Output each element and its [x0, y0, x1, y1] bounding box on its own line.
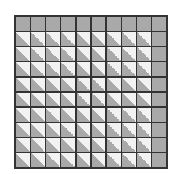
grid-cell-diagonal — [107, 32, 121, 46]
grid-cell-solid — [152, 62, 166, 76]
grid-cell-diagonal — [77, 62, 91, 76]
grid-cell-diagonal — [61, 78, 75, 92]
grid-cell-diagonal — [16, 47, 30, 61]
grid-cell-diagonal — [137, 62, 151, 76]
grid-cell-diagonal — [31, 47, 45, 61]
grid-cell-diagonal — [16, 123, 30, 137]
grid-cell-diagonal — [46, 108, 60, 122]
grid-cell-solid — [152, 123, 166, 137]
grid-cell-solid — [16, 17, 30, 31]
grid-cell-diagonal — [61, 153, 75, 167]
grid-cell-diagonal — [122, 93, 136, 107]
grid-cell-diagonal — [46, 47, 60, 61]
grid-cell-diagonal — [92, 138, 106, 152]
grid-cell-diagonal — [137, 123, 151, 137]
grid-cell-diagonal — [107, 78, 121, 92]
grid-cell-diagonal — [46, 153, 60, 167]
grid-cell-diagonal — [107, 108, 121, 122]
grid-cell-diagonal — [16, 138, 30, 152]
grid-cell-diagonal — [92, 93, 106, 107]
grid-cell-diagonal — [46, 123, 60, 137]
grid-cell-diagonal — [92, 123, 106, 137]
grid-cell-diagonal — [122, 153, 136, 167]
grid-cell-solid — [122, 17, 136, 31]
grid-cell-diagonal — [137, 108, 151, 122]
grid-cell-diagonal — [61, 138, 75, 152]
grid-cell-diagonal — [77, 108, 91, 122]
grid-cell-diagonal — [107, 153, 121, 167]
grid-cell-diagonal — [61, 32, 75, 46]
grid-cell-diagonal — [77, 93, 91, 107]
grid-cell-diagonal — [122, 78, 136, 92]
grid-cell-diagonal — [31, 78, 45, 92]
grid-cell-diagonal — [61, 123, 75, 137]
grid-cell-diagonal — [107, 138, 121, 152]
grid-cell-diagonal — [77, 153, 91, 167]
grid-cell-diagonal — [137, 78, 151, 92]
grid-cell-diagonal — [16, 108, 30, 122]
grid-cell-diagonal — [107, 123, 121, 137]
grid-cell-diagonal — [31, 123, 45, 137]
grid-cell-diagonal — [31, 32, 45, 46]
grid-cell-diagonal — [122, 62, 136, 76]
grid-cell-diagonal — [31, 108, 45, 122]
grid-cell-solid — [31, 17, 45, 31]
grid-cell-diagonal — [46, 93, 60, 107]
grid-cell-solid — [107, 17, 121, 31]
grid-cell-solid — [92, 17, 106, 31]
grid-cell-diagonal — [31, 62, 45, 76]
grid-cell-solid — [152, 78, 166, 92]
grid-cell-diagonal — [61, 47, 75, 61]
diagonal-grid — [14, 15, 168, 169]
grid-cell-diagonal — [77, 47, 91, 61]
grid-cell-diagonal — [137, 153, 151, 167]
grid-cell-diagonal — [137, 47, 151, 61]
grid-cell-diagonal — [16, 78, 30, 92]
grid-cell-solid — [152, 93, 166, 107]
grid-cell-diagonal — [122, 47, 136, 61]
grid-cell-diagonal — [16, 32, 30, 46]
grid-cell-diagonal — [46, 138, 60, 152]
grid-cell-diagonal — [122, 108, 136, 122]
grid-cell-solid — [152, 108, 166, 122]
grid-cell-solid — [152, 138, 166, 152]
grid-cell-diagonal — [46, 62, 60, 76]
grid-cell-diagonal — [61, 108, 75, 122]
grid-cell-diagonal — [137, 138, 151, 152]
grid-cell-diagonal — [61, 62, 75, 76]
grid-cell-diagonal — [31, 153, 45, 167]
grid-cell-diagonal — [122, 123, 136, 137]
grid-cell-diagonal — [107, 62, 121, 76]
grid-cell-diagonal — [92, 47, 106, 61]
grid-cell-solid — [152, 153, 166, 167]
grid-cell-diagonal — [46, 32, 60, 46]
grid-cell-diagonal — [92, 62, 106, 76]
grid-cell-solid — [137, 17, 151, 31]
grid-cell-diagonal — [77, 78, 91, 92]
grid-cell-solid — [77, 17, 91, 31]
grid-cell-solid — [152, 32, 166, 46]
grid-cell-diagonal — [107, 93, 121, 107]
grid-cell-diagonal — [92, 108, 106, 122]
grid-cell-diagonal — [46, 78, 60, 92]
grid-cell-diagonal — [122, 32, 136, 46]
grid-cell-diagonal — [107, 47, 121, 61]
grid-cell-diagonal — [92, 32, 106, 46]
grid-cell-solid — [152, 17, 166, 31]
grid-cell-diagonal — [31, 93, 45, 107]
grid-cell-diagonal — [77, 32, 91, 46]
grid-cell-diagonal — [61, 93, 75, 107]
grid-cell-solid — [61, 17, 75, 31]
grid-cell-diagonal — [77, 138, 91, 152]
grid-cell-diagonal — [92, 78, 106, 92]
grid-cell-diagonal — [16, 62, 30, 76]
grid-cell-diagonal — [122, 138, 136, 152]
grid-cell-diagonal — [77, 123, 91, 137]
grid-cell-diagonal — [31, 138, 45, 152]
grid-cell-solid — [46, 17, 60, 31]
grid-cell-solid — [152, 47, 166, 61]
grid-cell-diagonal — [137, 32, 151, 46]
grid-cell-diagonal — [16, 93, 30, 107]
grid-cell-diagonal — [92, 153, 106, 167]
grid-cell-diagonal — [16, 153, 30, 167]
